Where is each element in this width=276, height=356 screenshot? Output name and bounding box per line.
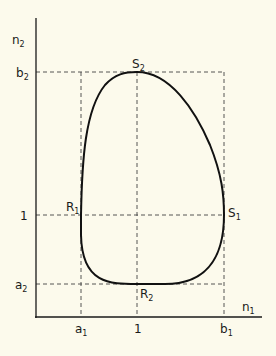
dashed-guides	[36, 72, 224, 317]
closed-curve	[81, 72, 224, 284]
x-tick-1: 1	[134, 322, 142, 336]
diagram-canvas: n2 n1 b2 1 a2 a1 1 b1 S2 S1 R1 R2	[0, 0, 276, 356]
y-axis-label: n2	[12, 33, 25, 49]
axes	[35, 18, 262, 318]
point-R1: R1	[66, 200, 79, 216]
point-S2: S2	[132, 57, 145, 73]
y-tick-b2: b2	[16, 66, 29, 82]
y-tick-1: 1	[20, 209, 28, 223]
x-tick-a1: a1	[75, 322, 87, 338]
point-R2: R2	[140, 287, 153, 303]
x-tick-b1: b1	[220, 322, 233, 338]
x-axis-label: n1	[242, 300, 255, 316]
y-tick-a2: a2	[15, 278, 27, 294]
point-S1: S1	[228, 206, 241, 222]
